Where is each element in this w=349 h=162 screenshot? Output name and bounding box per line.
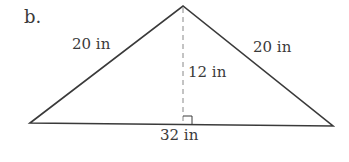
height-label: 12 in <box>188 63 226 81</box>
triangle-outline <box>30 6 333 126</box>
left-side-label: 20 in <box>72 35 110 53</box>
right-side-label: 20 in <box>253 38 291 56</box>
base-label: 32 in <box>160 126 198 144</box>
right-angle-marker <box>183 116 192 125</box>
part-label: b. <box>24 6 41 27</box>
